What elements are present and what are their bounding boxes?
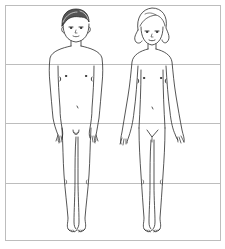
figures-illustration xyxy=(0,0,225,249)
right-figure-girl xyxy=(120,8,184,232)
left-figure-boy xyxy=(49,9,103,232)
figure-diagram xyxy=(0,0,225,249)
